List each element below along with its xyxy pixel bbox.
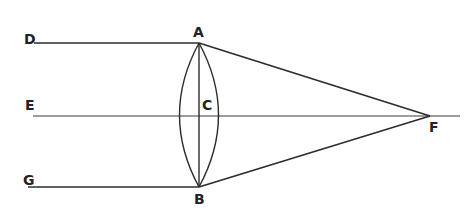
label-F: F <box>429 119 439 135</box>
label-E: E <box>25 97 35 113</box>
label-G: G <box>23 172 35 188</box>
lens-left-surface <box>180 43 200 187</box>
label-D: D <box>24 31 36 47</box>
ray-BF <box>199 116 430 187</box>
label-A: A <box>193 24 204 40</box>
lens-right-surface <box>199 43 219 187</box>
label-B: B <box>194 191 205 207</box>
lens-diagram: D A E C G B F <box>0 0 474 214</box>
ray-AF <box>199 43 430 116</box>
label-C: C <box>202 97 212 113</box>
